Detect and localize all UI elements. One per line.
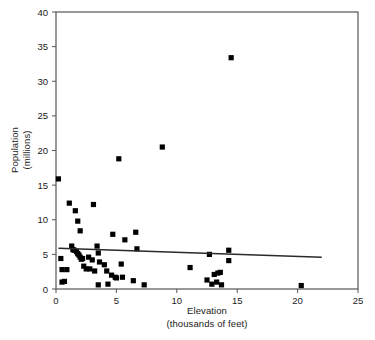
y-axis-tick-labels: 0510152025303540 — [37, 7, 48, 295]
data-point — [80, 256, 85, 261]
data-point — [142, 282, 147, 287]
data-point — [214, 279, 219, 284]
data-point — [64, 267, 69, 272]
x-tick-label: 15 — [232, 295, 243, 306]
y-tick-label: 25 — [37, 110, 48, 121]
data-point — [226, 248, 231, 253]
data-point — [219, 282, 224, 287]
data-point — [131, 278, 136, 283]
data-point — [90, 257, 95, 262]
data-point — [119, 261, 124, 266]
data-point — [133, 230, 138, 235]
y-tick-label: 40 — [37, 7, 48, 18]
data-point — [87, 266, 92, 271]
data-point — [102, 262, 107, 267]
x-tick-label: 5 — [114, 295, 119, 306]
y-tick-label: 15 — [37, 180, 48, 191]
plot-frame — [56, 12, 358, 289]
data-point — [91, 202, 96, 207]
data-point — [92, 268, 97, 273]
data-point — [59, 267, 64, 272]
x-tick-label: 0 — [53, 295, 58, 306]
data-point — [204, 277, 209, 282]
data-point — [105, 282, 110, 287]
y-tick-label: 30 — [37, 76, 48, 87]
data-point — [116, 156, 121, 161]
y-tick-label: 5 — [43, 249, 48, 260]
x-axis-title-units: (thousands of feet) — [166, 318, 247, 329]
data-point — [122, 237, 127, 242]
y-axis-title: Population — [9, 127, 20, 173]
x-tick-label: 20 — [292, 295, 303, 306]
data-point — [209, 282, 214, 287]
data-point — [94, 243, 99, 248]
data-point — [58, 256, 63, 261]
data-point — [187, 265, 192, 270]
y-tick-label: 35 — [37, 41, 48, 52]
data-point — [97, 259, 102, 264]
elevation-population-scatter-chart: 0510152025303540 0510152025 Elevation (t… — [0, 0, 375, 340]
y-tick-label: 10 — [37, 214, 48, 225]
data-point — [226, 258, 231, 263]
x-tick-label: 10 — [172, 295, 183, 306]
x-axis-title: Elevation — [187, 305, 227, 316]
data-point — [73, 208, 78, 213]
data-point — [75, 219, 80, 224]
x-tick-label: 25 — [353, 295, 364, 306]
data-point — [56, 176, 61, 181]
scatter-plot-figure: 0510152025303540 0510152025 Elevation (t… — [0, 0, 375, 340]
data-point — [114, 275, 119, 280]
data-point — [218, 270, 223, 275]
data-point — [96, 282, 101, 287]
y-tick-label: 0 — [43, 284, 48, 295]
data-point — [299, 283, 304, 288]
data-point — [62, 279, 67, 284]
data-point — [78, 228, 83, 233]
y-axis-title-units: (millions) — [21, 131, 32, 170]
data-point — [104, 268, 109, 273]
data-point — [120, 275, 125, 280]
data-point — [229, 55, 234, 60]
data-point — [160, 144, 165, 149]
data-point — [67, 201, 72, 206]
data-point — [110, 232, 115, 237]
y-tick-label: 20 — [37, 145, 48, 156]
data-point-markers — [56, 55, 304, 288]
data-point — [96, 250, 101, 255]
